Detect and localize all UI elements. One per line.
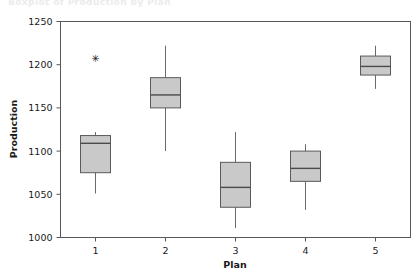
y-tick-label: 1050 (28, 189, 52, 200)
box-plot-group (221, 132, 251, 228)
y-tick-label: 1000 (28, 232, 52, 243)
plot-canvas: 100010501100115012001250 12345 ✳ Product… (0, 0, 420, 277)
box-iqr-rect (81, 136, 111, 173)
x-tick-label: 2 (162, 245, 168, 256)
y-axis-title: Production (8, 100, 19, 159)
boxes-layer: ✳ (81, 46, 391, 228)
x-tick-label: 5 (372, 245, 378, 256)
y-tick-label: 1250 (28, 16, 52, 27)
box-plot-group (291, 144, 321, 210)
y-tick-label: 1200 (28, 59, 52, 70)
box-iqr-rect (291, 151, 321, 181)
y-axis: 100010501100115012001250 (28, 16, 60, 243)
x-tick-label: 3 (232, 245, 238, 256)
boxplot-chart: Boxplot of Production by Plan 1000105011… (0, 0, 420, 277)
box-iqr-rect (151, 78, 181, 108)
box-plot-group: ✳ (81, 53, 111, 194)
y-tick-label: 1150 (28, 102, 52, 113)
box-iqr-rect (221, 162, 251, 207)
box-plot-group (361, 46, 391, 89)
outlier-marker: ✳ (91, 53, 99, 64)
x-tick-label: 1 (92, 245, 98, 256)
x-axis-title: Plan (223, 259, 247, 270)
box-iqr-rect (361, 56, 391, 75)
y-tick-label: 1100 (28, 146, 52, 157)
x-tick-label: 4 (302, 245, 308, 256)
x-axis: 12345 (92, 238, 378, 256)
box-plot-group (151, 46, 181, 151)
